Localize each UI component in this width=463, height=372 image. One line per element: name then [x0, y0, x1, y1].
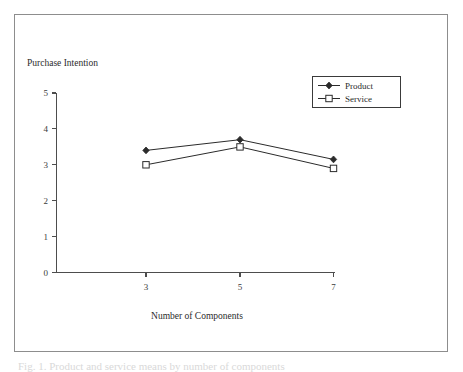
line-chart: Purchase Intention 0 1 2 3 4 5 3 5 [0, 0, 463, 372]
data-point-service-7 [330, 165, 336, 171]
legend-label-service: Service [345, 94, 372, 104]
chart-legend: Product Service [313, 77, 401, 108]
y-tick-label-3: 3 [44, 160, 49, 170]
figure-caption-partial: Fig. 1. Product and service means by num… [18, 360, 448, 372]
y-axis-title: Purchase Intention [27, 58, 98, 68]
legend-marker-service-open-square [326, 95, 332, 101]
y-tick-label-2: 2 [44, 196, 49, 206]
legend-label-product: Product [345, 81, 373, 91]
y-tick-label-4: 4 [44, 124, 49, 134]
data-point-product-3 [143, 147, 149, 154]
x-tick-label-3: 3 [144, 282, 149, 292]
x-tick-label-7: 7 [331, 282, 336, 292]
data-point-product-7 [330, 156, 336, 163]
x-axis-title: Number of Components [151, 311, 243, 321]
x-axis-ticks: 3 5 7 [144, 273, 337, 293]
y-axis-ticks: 0 1 2 3 4 5 [44, 88, 57, 278]
x-tick-label-5: 5 [238, 282, 243, 292]
y-tick-label-1: 1 [44, 232, 49, 242]
y-tick-label-0: 0 [44, 268, 49, 278]
data-point-service-5 [237, 144, 243, 150]
y-tick-label-5: 5 [44, 88, 49, 98]
figure-root: Purchase Intention 0 1 2 3 4 5 3 5 [0, 0, 463, 372]
data-point-service-3 [143, 162, 149, 168]
data-point-product-5 [237, 136, 243, 143]
